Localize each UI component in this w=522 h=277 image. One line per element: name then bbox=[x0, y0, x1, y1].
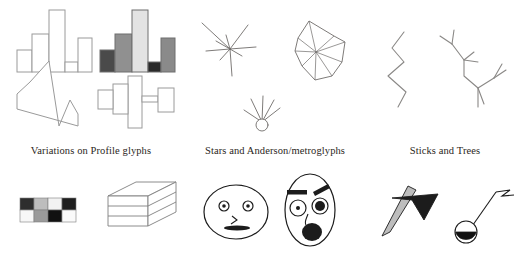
panel-stars-metroglyphs: Stars and Anderson/metroglyphs bbox=[182, 4, 368, 144]
stick-figure-glyph bbox=[388, 32, 406, 107]
face-glyphs-svg bbox=[182, 170, 368, 254]
face-glyph-art bbox=[182, 170, 368, 254]
face-glyph-surprised bbox=[285, 174, 335, 246]
sticks-trees-art bbox=[368, 4, 522, 142]
caption-stars-metroglyphs: Stars and Anderson/metroglyphs bbox=[182, 145, 368, 156]
panel-arrows-weathervanes: Arrows and Weathervanes bbox=[368, 170, 522, 274]
profile-glyph-art bbox=[0, 4, 182, 142]
panel-face-glyphs: Face glyphs bbox=[182, 170, 368, 274]
stars-metroglyph-art bbox=[182, 4, 368, 142]
autoglyph-matrix bbox=[20, 198, 76, 222]
polygon-star-glyph bbox=[295, 21, 345, 80]
arrows-weathervanes-svg bbox=[368, 170, 522, 254]
box-profile-glyph bbox=[98, 76, 174, 128]
stars-metroglyphs-svg bbox=[182, 4, 368, 142]
shaded-bar-profile-glyph bbox=[100, 10, 175, 72]
weathervane-glyph bbox=[455, 190, 514, 243]
autoglyph-box-art bbox=[0, 170, 182, 254]
tree-glyph bbox=[440, 30, 506, 107]
caption-sticks-trees: Sticks and Trees bbox=[368, 145, 522, 156]
caption-profile-glyphs: Variations on Profile glyphs bbox=[0, 145, 182, 156]
glyph-types-figure: Variations on Profile glyphs bbox=[0, 0, 522, 277]
box-glyph-3d bbox=[108, 182, 176, 226]
outline-bar-profile-glyph bbox=[17, 10, 92, 72]
panel-profile-glyphs: Variations on Profile glyphs bbox=[0, 4, 182, 144]
ray-star-glyph bbox=[202, 23, 256, 76]
profile-glyphs-svg bbox=[0, 4, 182, 142]
panel-sticks-trees: Sticks and Trees bbox=[368, 4, 522, 144]
arrows-weathervanes-art bbox=[368, 170, 522, 254]
face-glyph-neutral bbox=[204, 185, 268, 239]
anderson-metroglyph bbox=[244, 96, 280, 131]
autoglyph-box-svg bbox=[0, 170, 182, 254]
panel-autoglyph-box: Autoglyph and box glyph bbox=[0, 170, 182, 274]
sticks-trees-svg bbox=[368, 4, 522, 142]
arrow-glyph bbox=[382, 186, 438, 236]
